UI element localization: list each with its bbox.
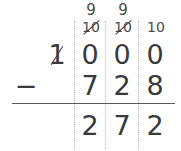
minus-operator: −: [12, 72, 40, 99]
regroup-hundreds-crossed-out: 10: [76, 20, 106, 34]
regroup-ones-value: 10: [141, 20, 171, 34]
subtrahend-digit-ones: 8: [141, 72, 169, 99]
column-separator-tens-ones: [138, 21, 139, 149]
minuend-thousands-crossed-out-text: 1: [48, 41, 65, 68]
minuend-digit-thousands: 1: [43, 41, 71, 68]
answer-separator-rule: [12, 103, 175, 104]
subtrahend-digit-hundreds: 7: [76, 72, 104, 99]
regroup-tens-crossed-out: 10: [108, 20, 138, 34]
subtraction-worksheet: 9 10 9 10 10 1 0 0 0 − 7 2 8 2 7 2: [0, 0, 181, 151]
minuend-digit-tens: 0: [108, 41, 136, 68]
minuend-digit-ones: 0: [141, 41, 169, 68]
minuend-digit-hundreds: 0: [76, 41, 104, 68]
regroup-tens-new-value: 9: [108, 3, 138, 18]
difference-digit-tens: 7: [108, 112, 136, 139]
regroup-tens-crossed-out-text: 10: [114, 20, 132, 34]
subtrahend-digit-tens: 2: [108, 72, 136, 99]
column-separator-hundreds-tens: [105, 21, 106, 149]
difference-digit-hundreds: 2: [76, 112, 104, 139]
regroup-hundreds-crossed-out-text: 10: [82, 20, 100, 34]
difference-digit-ones: 2: [141, 112, 169, 139]
regroup-hundreds-new-value: 9: [76, 3, 106, 18]
column-separator-thousands-hundreds: [74, 21, 75, 149]
